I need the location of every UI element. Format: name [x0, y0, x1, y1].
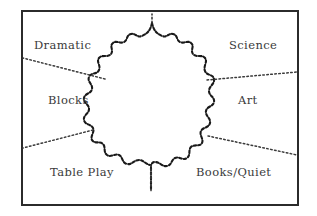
zone-label-dramatic: Dramatic	[34, 40, 91, 52]
zone-label-art: Art	[238, 95, 258, 107]
zone-label-blocks: Blocks	[48, 95, 89, 107]
zone-label-table-play: Table Play	[50, 167, 114, 179]
zone-label-science: Science	[229, 40, 277, 52]
zone-label-books-quiet: Books/Quiet	[196, 167, 271, 179]
diagram-screenshot: Dramatic Science Blocks Art Table Play B…	[0, 0, 317, 216]
